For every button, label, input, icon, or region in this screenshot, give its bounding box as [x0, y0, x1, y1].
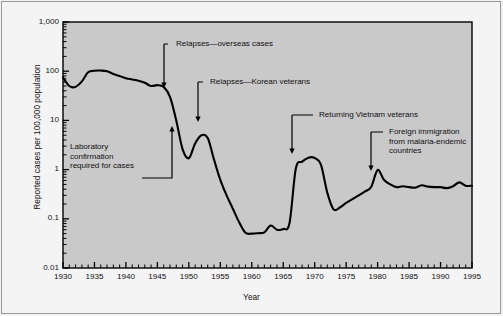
annotation-foreign-immigration: Foreign immigration from malaria-endemic…	[389, 127, 466, 156]
y-tick-label: 1	[16, 164, 59, 173]
x-tick-label: 1975	[329, 272, 363, 281]
x-tick-label: 1980	[361, 272, 395, 281]
y-tick-label: 0.01	[16, 263, 59, 272]
x-tick-label: 1935	[77, 272, 111, 281]
annotation-returning-vietnam-veterans: Returning Vietnam veterans	[319, 110, 418, 120]
annotation-relapses-overseas-cases: Relapses—overseas cases	[176, 39, 273, 49]
chart-figure: Reported cases per 100,000 population Ye…	[0, 0, 503, 316]
x-tick-label: 1955	[203, 272, 237, 281]
x-tick-label: 1950	[172, 272, 206, 281]
y-tick-label: 0.1	[16, 213, 59, 222]
annotation-laboratory-confirmation: Laboratory confirmation required for cas…	[70, 142, 134, 171]
y-tick-label: 1,000	[16, 17, 59, 26]
x-tick-label: 1930	[46, 272, 80, 281]
x-tick-label: 1985	[392, 272, 426, 281]
x-tick-label: 1970	[298, 272, 332, 281]
x-tick-label: 1940	[109, 272, 143, 281]
x-tick-label: 1965	[266, 272, 300, 281]
x-tick-label: 1990	[424, 272, 458, 281]
x-tick-label: 1960	[235, 272, 269, 281]
y-tick-label: 10	[16, 115, 59, 124]
x-tick-label: 1945	[140, 272, 174, 281]
annotation-relapses-korean-veterans: Relapses—Korean veterans	[210, 77, 310, 87]
x-tick-label: 1995	[455, 272, 489, 281]
y-tick-label: 100	[16, 66, 59, 75]
